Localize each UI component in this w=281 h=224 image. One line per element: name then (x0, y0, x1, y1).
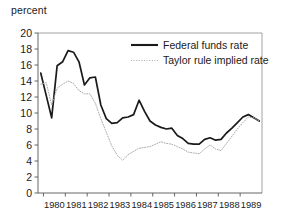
y-axis-tick-label: 2 (26, 171, 32, 183)
y-axis-tick-label: 16 (20, 59, 32, 71)
x-axis-tick-label: 1989 (241, 200, 262, 210)
y-axis-tick-label: 10 (20, 107, 32, 119)
legend-label-1: Federal funds rate (163, 39, 248, 51)
x-axis-tick-label: 1985 (153, 200, 174, 210)
legend-label-2: Taylor rule implied rate (163, 54, 269, 66)
x-axis-tick-label: 1986 (175, 200, 196, 210)
x-axis-tick-label: 1987 (197, 200, 218, 210)
y-axis-tick-label: 8 (26, 123, 32, 135)
x-axis-ticks (43, 193, 240, 197)
x-axis-tick-labels: 1980198119821983198419851986198719881989 (44, 200, 261, 210)
y-axis-ticks (35, 33, 39, 193)
chart-legend: Federal funds rateTaylor rule implied ra… (131, 39, 269, 67)
y-axis-unit-label: percent (11, 4, 47, 16)
x-axis-tick-label: 1988 (219, 200, 240, 210)
x-axis-tick-label: 1982 (88, 200, 109, 210)
data-series-layer (41, 51, 260, 161)
y-axis-tick-label: 12 (20, 91, 32, 103)
x-axis-tick-label: 1980 (44, 200, 65, 210)
line-chart-svg: 02468101214161820 1980198119821983198419… (0, 0, 281, 224)
y-axis-tick-label: 0 (26, 187, 32, 199)
y-axis-tick-labels: 02468101214161820 (20, 27, 32, 199)
y-axis-tick-label: 18 (20, 43, 32, 55)
x-axis-tick-label: 1983 (110, 200, 131, 210)
y-axis-tick-label: 14 (20, 75, 32, 87)
y-axis-tick-label: 20 (20, 27, 32, 39)
chart-figure: percent 02468101214161820 19801981198219… (0, 0, 281, 224)
y-axis-tick-label: 6 (26, 139, 32, 151)
x-axis-tick-label: 1981 (66, 200, 87, 210)
x-axis-tick-label: 1984 (131, 200, 152, 210)
y-axis-tick-label: 4 (26, 155, 32, 167)
